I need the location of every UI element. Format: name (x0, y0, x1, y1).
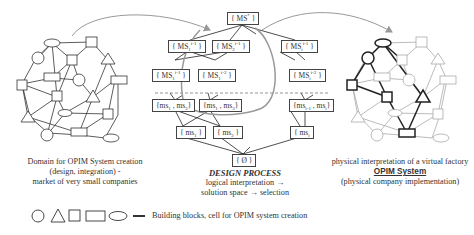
tree-node-empty: { Ø } (232, 154, 256, 167)
tree-node-l2-1: { MS1i-1 } (152, 69, 190, 82)
tree-node-l4-1: { ms1 } (176, 126, 206, 139)
tree-node-l4-i: { msi (290, 126, 314, 139)
right-caption: physical interpretation of a virtual fac… (325, 157, 474, 187)
left-caption-line2: (design, integration) - (10, 167, 160, 177)
center-caption: DESIGN PROCESS logical interpretation → … (180, 168, 310, 198)
tree-node-l3-i: {msi-1 , msi} (289, 99, 334, 112)
tree-node-l3-1: {ms1 , ms2} (152, 99, 195, 112)
tree-node-root: { MS* } (227, 12, 259, 25)
left-network-nodes (17, 37, 127, 142)
legend-square-icon (69, 210, 80, 221)
left-caption: Domain for OPIM System creation (design,… (10, 157, 160, 187)
tree-node-l1-2: { MS2i-1 } (212, 40, 250, 53)
arrow-tree-to-right (262, 13, 392, 32)
legend-label: Building blocks, cell for OPIM system cr… (152, 211, 307, 221)
diagram-canvas (0, 0, 474, 235)
legend-ellipse-icon (109, 212, 127, 221)
right-caption-line2: (physical company implementation) (325, 177, 474, 187)
design-process-title: DESIGN PROCESS (180, 168, 310, 178)
left-caption-line3: market of very small companies (10, 177, 160, 187)
legend-circle-icon (32, 210, 44, 222)
tree-node-l2-2: { MS1i-2 } (198, 69, 236, 82)
center-caption-line2: solution space → selection (180, 188, 310, 198)
opim-system-title: OPIM System (325, 167, 474, 177)
tree-node-l1-i: { MSii-1 } (281, 40, 318, 53)
left-caption-line1: Domain for OPIM System creation (10, 157, 160, 167)
tree-node-l2-i: { MSii-2 } (289, 69, 326, 82)
tree-node-l3-2: {ms1 , ms3} (199, 99, 242, 112)
arrow-left-to-tree (72, 15, 210, 36)
legend-triangle-icon (51, 209, 65, 222)
legend-rectangle-icon (86, 211, 105, 221)
right-caption-line1: physical interpretation of a virtual fac… (325, 157, 474, 167)
legend-shapes (32, 209, 145, 222)
tree-node-l1-1: { MS1i-1 } (168, 40, 206, 53)
center-caption-line1: logical interpretation → (180, 178, 310, 188)
tree-node-l4-2: { ms2 } (213, 126, 243, 139)
